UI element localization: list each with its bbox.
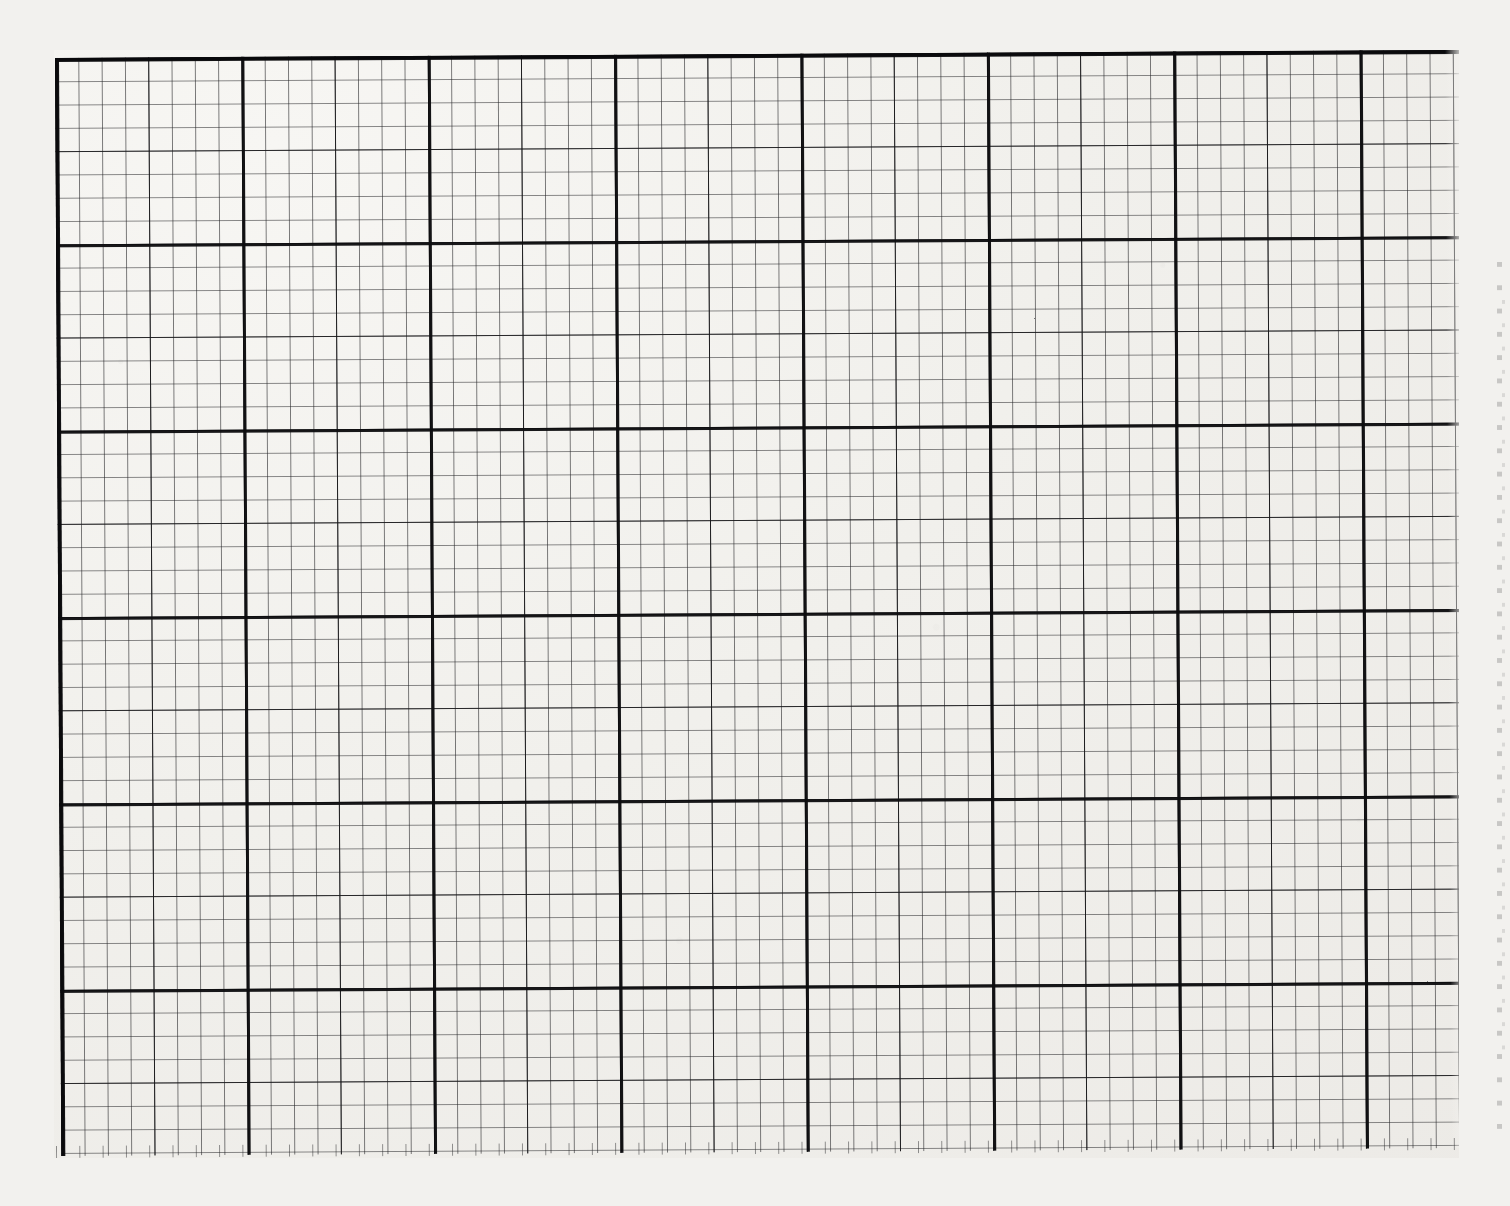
graph-paper-grid (55, 50, 1465, 1156)
major-gridlines (55, 50, 1465, 1156)
top-margin (0, 0, 1510, 50)
bottom-margin (0, 1158, 1510, 1206)
adjacent-sheet-edge-ticks-alt (1502, 300, 1505, 1060)
left-margin (0, 0, 54, 1206)
